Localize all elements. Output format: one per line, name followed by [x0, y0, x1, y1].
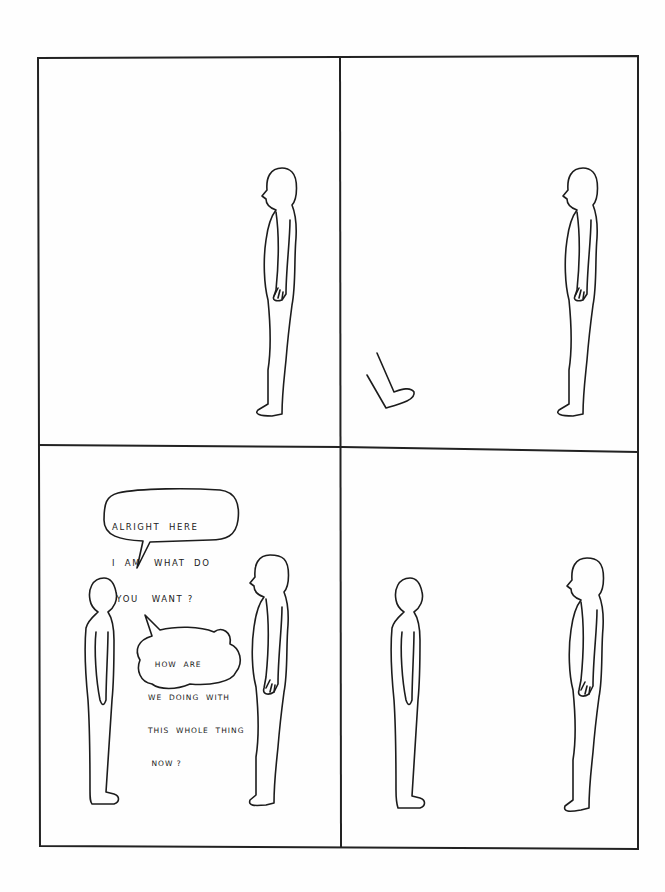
panel-1-figure: [257, 168, 297, 416]
panel-4-right-figure: [565, 558, 604, 811]
speech-bubble-2-line-3: THIS WHOLE THING: [148, 725, 244, 736]
panel-2-kicking-leg: [367, 353, 414, 408]
speech-bubble-2-line-1: HOW ARE: [148, 659, 244, 670]
comic-artwork: [0, 0, 665, 892]
panel-frames: [38, 56, 638, 849]
speech-bubble-2-line-2: WE DOING WITH: [148, 692, 244, 703]
speech-bubble-2-line-4: NOW ?: [148, 758, 244, 769]
panel-2-figure: [558, 168, 598, 416]
panel-3-right-figure: [250, 555, 289, 805]
speech-bubble-1-line-2: I AM WHAT DO: [112, 557, 211, 569]
comic-page: ALRIGHT HERE I AM WHAT DO YOU WANT ? HOW…: [0, 0, 665, 892]
panel-4-left-figure: [391, 578, 424, 808]
speech-bubble-1-text: ALRIGHT HERE I AM WHAT DO YOU WANT ?: [112, 497, 211, 629]
speech-bubble-2-text: HOW ARE WE DOING WITH THIS WHOLE THING N…: [148, 637, 244, 791]
speech-bubble-1-line-1: ALRIGHT HERE: [112, 521, 211, 533]
speech-bubble-1-line-3: YOU WANT ?: [112, 593, 211, 605]
